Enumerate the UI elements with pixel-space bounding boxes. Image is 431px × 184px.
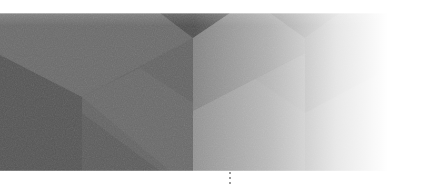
dot [229,172,231,174]
band-bottom-edge [0,170,431,171]
geometric-header-banner [0,0,431,184]
dot [229,177,231,179]
band-top-edge [0,13,431,14]
dot [229,182,231,184]
scroll-hint-dots-icon [228,172,231,184]
geometric-facet-pattern [0,13,431,171]
